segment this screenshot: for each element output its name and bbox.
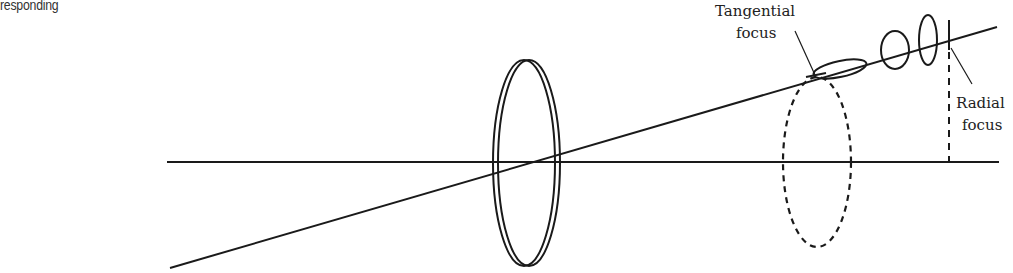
oblique-ray <box>170 27 997 268</box>
radial-label-2: focus <box>962 116 1002 134</box>
flat-ellipse <box>812 56 868 83</box>
radial-leader <box>951 48 972 84</box>
radial-label-1: Radial <box>956 94 1005 112</box>
tangential-leader <box>795 31 815 75</box>
tall-ellipse <box>919 15 937 65</box>
tangential-label-1: Tangential <box>715 2 795 20</box>
circle-of-least-confusion <box>881 31 909 69</box>
astigmatism-diagram: Tangential focus Radial focus <box>0 0 1013 273</box>
tangential-label-2: focus <box>736 24 776 42</box>
